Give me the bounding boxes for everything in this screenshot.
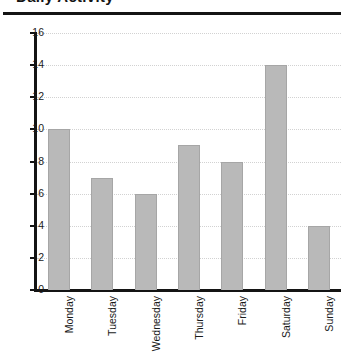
x-axis-tick-label: Wednesday <box>151 296 162 351</box>
gridline <box>37 129 341 131</box>
x-axis-tick-label: Monday <box>64 296 75 333</box>
bar <box>265 65 287 290</box>
x-axis-tick-label: Tuesday <box>107 296 118 336</box>
bar <box>308 226 330 290</box>
gridline <box>37 33 341 35</box>
plot-area: 0246810121416MondayTuesdayWednesdayThurs… <box>0 0 344 354</box>
y-axis-tick-label: 14 <box>18 59 44 70</box>
y-axis-tick-label: 10 <box>18 123 44 134</box>
bar <box>135 194 157 290</box>
gridline <box>37 65 341 67</box>
x-axis-tick-label: Thursday <box>194 296 205 340</box>
bar <box>48 129 70 290</box>
bar <box>91 178 113 290</box>
x-axis-tick-label: Sunday <box>324 296 335 332</box>
gridline <box>37 97 341 99</box>
bar <box>221 162 243 291</box>
y-axis-tick-label: 12 <box>18 91 44 102</box>
y-axis-tick-label: 4 <box>18 220 44 231</box>
x-axis-tick-label: Friday <box>237 296 248 325</box>
y-axis-tick-label: 6 <box>18 188 44 199</box>
bar-chart-figure: Daily Activity 0246810121416MondayTuesda… <box>0 0 344 354</box>
x-axis-tick-label: Saturday <box>281 296 292 338</box>
y-axis-tick-label: 8 <box>18 156 44 167</box>
y-axis-tick-label: 16 <box>18 27 44 38</box>
bar <box>178 145 200 290</box>
y-axis-tick-label: 0 <box>18 284 44 295</box>
y-axis-tick-label: 2 <box>18 252 44 263</box>
